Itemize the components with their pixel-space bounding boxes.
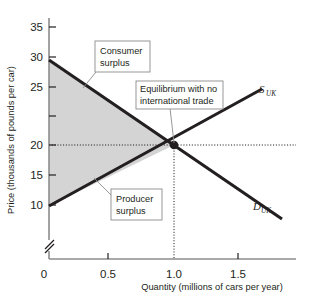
- x-tick-label-1.5: 1.5: [230, 268, 246, 280]
- consumer-surplus-callout: Consumer surplus: [95, 41, 150, 72]
- y-axis-title: Price (thousands of pounds per car): [6, 66, 16, 214]
- x-tick-label-0: 0: [41, 268, 47, 280]
- y-tick-label-10: 10: [30, 199, 43, 211]
- producer-surplus-label-line2: surplus: [116, 206, 146, 216]
- supply-curve-label-sub: UK: [266, 90, 277, 98]
- consumer-surplus-label-line1: Consumer: [100, 46, 142, 56]
- equilibrium-label-line2: international trade: [140, 96, 214, 106]
- producer-surplus-label-line1: Producer: [116, 194, 153, 204]
- supply-demand-chart: 35 30 25 20 15 10 0 0.5 1.0 1.5 Price (t…: [0, 0, 309, 294]
- y-tick-label-15: 15: [30, 169, 43, 181]
- supply-curve-label-main: S: [259, 83, 265, 95]
- x-tick-label-0.5: 0.5: [100, 268, 116, 280]
- consumer-surplus-label-line2: surplus: [100, 58, 130, 68]
- demand-curve-label-main: D: [252, 200, 261, 212]
- demand-curve-label-sub: UK: [261, 207, 272, 215]
- y-tick-label-25: 25: [30, 81, 43, 93]
- x-axis-title: Quantity (millions of cars per year): [141, 282, 283, 292]
- equilibrium-label-line1: Equilibrium with no: [140, 84, 217, 94]
- y-tick-label-35: 35: [30, 21, 43, 33]
- y-tick-label-30: 30: [30, 51, 43, 63]
- producer-surplus-callout: Producer surplus: [111, 189, 162, 220]
- equilibrium-callout: Equilibrium with no international trade: [136, 81, 223, 109]
- y-tick-label-20: 20: [30, 139, 43, 151]
- x-tick-label-1.0: 1.0: [166, 268, 182, 280]
